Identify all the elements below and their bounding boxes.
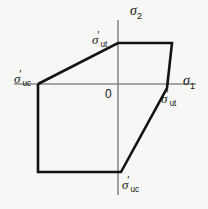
- sigma-ut-prime-top-label: σ′ut: [92, 30, 107, 49]
- subscript: ut: [169, 99, 176, 108]
- failure-envelope-outline: [38, 43, 172, 172]
- subscript: uc: [130, 185, 139, 194]
- sigma-uc-prime-bottom-label: σ′uc: [122, 175, 139, 194]
- sigma-1-subscript: 1: [190, 81, 195, 91]
- origin-label: 0: [105, 88, 112, 100]
- sigma-2-subscript: 2: [137, 11, 142, 21]
- sigma-2-axis-label: σ2: [130, 4, 142, 21]
- subscript: ut: [100, 40, 107, 49]
- sigma-1-symbol: σ: [183, 73, 190, 88]
- sigma-1-axis-label: σ1: [183, 74, 195, 91]
- subscript: uc: [22, 79, 31, 88]
- sigma-ut-prime-right-label: σ′ut: [161, 89, 176, 108]
- sigma-2-symbol: σ: [130, 3, 137, 18]
- sigma-uc-prime-left-label: σ′uc: [14, 69, 31, 88]
- failure-envelope-figure: σ2 σ1 0 σ′ut σ′uc σ′ut σ′uc: [0, 0, 208, 209]
